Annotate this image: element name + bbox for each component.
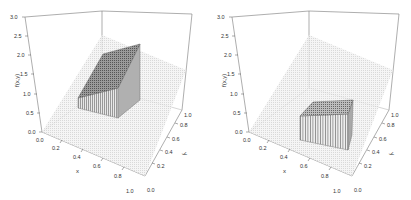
y-tick: 0.0 <box>354 187 362 193</box>
x-tick: 0.8 <box>321 173 329 179</box>
z-axis-label: f(x,y) <box>221 74 227 87</box>
left-3d-plot: 3.0 2.5 2.0 1.5 1.0 0.5 0.0 f(x,y) 0.0 0… <box>0 0 205 200</box>
y-tick: 0.0 <box>147 187 155 193</box>
x-axis-label: x <box>283 168 286 174</box>
z-tick: 1.0 <box>23 91 31 97</box>
y-tick: 0.4 <box>165 149 173 155</box>
z-tick: 2.0 <box>224 52 232 58</box>
x-tick: 0.4 <box>280 154 288 160</box>
z-axis-label: f(x,y) <box>14 74 20 87</box>
z-tick: 2.5 <box>221 33 229 39</box>
y-tick: 0.8 <box>180 122 188 128</box>
x-axis-label: x <box>76 168 79 174</box>
z-tick: 1.5 <box>227 71 235 77</box>
z-tick: 3.0 <box>10 14 18 20</box>
z-tick: 3.0 <box>217 14 225 20</box>
x-tick: 0.8 <box>114 173 122 179</box>
y-tick: 0.4 <box>372 149 380 155</box>
y-tick: 0.6 <box>379 136 387 142</box>
right-plot-canvas: 3.0 2.5 2.0 1.5 1.0 0.5 0.0 f(x,y) 0.0 0… <box>205 0 410 200</box>
y-tick: 0.6 <box>172 136 180 142</box>
x-tick: 0.0 <box>36 137 44 143</box>
x-tick: 0.4 <box>73 154 81 160</box>
x-tick: 0.6 <box>300 163 308 169</box>
z-tick: 2.5 <box>14 33 22 39</box>
z-tick: 1.0 <box>230 91 238 97</box>
z-tick: 0.5 <box>233 110 241 116</box>
y-tick: 0.2 <box>364 163 372 169</box>
z-tick: 1.5 <box>20 71 28 77</box>
y-tick: 0.8 <box>387 122 395 128</box>
y-tick: 1.0 <box>391 112 399 118</box>
x-tick: 1.0 <box>126 188 134 194</box>
x-tick: 1.0 <box>333 188 341 194</box>
y-axis-label: y <box>182 151 189 156</box>
z-tick: 0.5 <box>26 110 34 116</box>
left-plot-canvas: 3.0 2.5 2.0 1.5 1.0 0.5 0.0 f(x,y) 0.0 0… <box>0 0 205 200</box>
z-tick: 0.0 <box>28 129 36 135</box>
y-tick: 0.2 <box>157 163 165 169</box>
y-tick: 1.0 <box>184 112 192 118</box>
x-tick: 0.0 <box>243 137 251 143</box>
x-tick: 0.2 <box>52 145 60 151</box>
x-tick: 0.6 <box>93 163 101 169</box>
z-tick: 0.0 <box>235 129 243 135</box>
right-3d-plot: 3.0 2.5 2.0 1.5 1.0 0.5 0.0 f(x,y) 0.0 0… <box>205 0 410 200</box>
z-tick: 2.0 <box>17 52 25 58</box>
y-axis-label: y <box>389 151 396 156</box>
x-tick: 0.2 <box>259 145 267 151</box>
